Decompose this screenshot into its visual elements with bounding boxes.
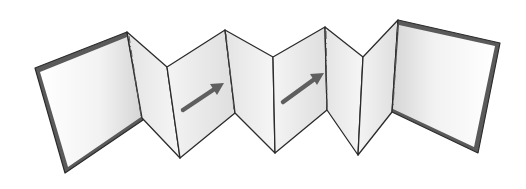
panel-5 <box>325 27 363 155</box>
panel-3 <box>225 30 275 153</box>
right-cover <box>392 20 500 153</box>
panel-2 <box>167 30 235 158</box>
accordion-book-drawing <box>0 0 526 189</box>
accordion-book-illustration <box>0 0 526 189</box>
panel-6 <box>358 20 398 155</box>
left-cover <box>35 32 143 173</box>
